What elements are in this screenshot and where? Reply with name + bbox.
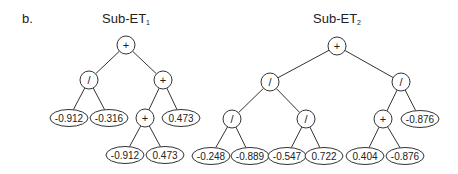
operator-node: + — [374, 110, 392, 128]
node-label: + — [380, 113, 386, 125]
node-label: 0.473 — [168, 113, 193, 124]
constant-node: -0.912 — [50, 110, 88, 127]
tree-edge — [129, 126, 140, 147]
operator-node: / — [223, 110, 241, 128]
constant-node: 0.473 — [162, 110, 200, 127]
tree-edge — [133, 51, 157, 74]
constant-node: 0.722 — [305, 148, 343, 165]
constant-node: -0.912 — [106, 147, 144, 164]
node-label: -0.912 — [55, 113, 84, 124]
node-label: + — [160, 74, 166, 86]
node-label: 0.473 — [152, 150, 177, 161]
node-label: -0.876 — [406, 114, 435, 125]
tree-edge — [276, 88, 299, 112]
node-label: 0.722 — [311, 151, 336, 162]
node-label: -0.912 — [111, 150, 140, 161]
operator-node: / — [297, 110, 315, 128]
node-label: -0.316 — [95, 113, 124, 124]
constant-node: -0.876 — [386, 148, 424, 165]
expression-tree-diagram: +/+-0.912-0.316+0.473-0.9120.473+////+-0… — [0, 0, 458, 174]
tree-1: +/+-0.912-0.316+0.473-0.9120.473 — [50, 36, 200, 164]
tree-edge — [149, 126, 160, 147]
node-label: 0.404 — [352, 151, 377, 162]
operator-node: + — [136, 109, 154, 127]
operator-node: + — [117, 36, 135, 54]
tree-edge — [216, 127, 228, 148]
constant-node: 0.404 — [346, 148, 384, 165]
constant-node: -0.889 — [231, 148, 269, 165]
tree-edge — [236, 127, 246, 148]
tree-2: +////+-0.876-0.248-0.889-0.5470.7220.404… — [192, 37, 439, 165]
tree-edge — [96, 51, 120, 74]
node-label: + — [142, 112, 148, 124]
operator-node: / — [80, 71, 98, 89]
tree-edge — [73, 88, 84, 110]
tree-edge — [369, 127, 379, 148]
operator-node: + — [154, 71, 172, 89]
tree-edge — [310, 127, 320, 148]
tree-edge — [278, 50, 329, 77]
tree-edge — [405, 90, 416, 111]
operator-node: + — [328, 37, 346, 55]
node-label: + — [334, 40, 340, 52]
node-label: -0.889 — [236, 151, 265, 162]
tree-edge — [291, 127, 302, 148]
tree-edge — [388, 127, 401, 148]
node-label: + — [123, 39, 129, 51]
operator-node: / — [392, 73, 410, 91]
constant-node: -0.876 — [401, 111, 439, 128]
tree-edge — [93, 88, 104, 110]
constant-node: -0.547 — [268, 148, 306, 165]
constant-node: 0.473 — [146, 147, 184, 164]
constant-node: -0.316 — [90, 110, 128, 127]
node-label: -0.547 — [273, 151, 302, 162]
operator-node: / — [261, 73, 279, 91]
tree-edge — [345, 50, 393, 77]
tree-edge — [238, 88, 263, 112]
node-label: -0.248 — [197, 151, 226, 162]
tree-edge — [149, 88, 159, 110]
constant-node: -0.248 — [192, 148, 230, 165]
node-label: -0.876 — [391, 151, 420, 162]
tree-edge — [167, 88, 177, 110]
tree-edge — [387, 90, 397, 111]
